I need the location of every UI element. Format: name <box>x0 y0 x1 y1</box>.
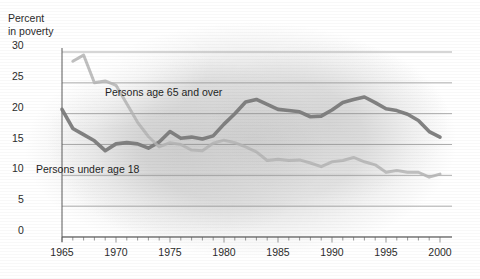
series-lines <box>62 55 440 177</box>
x-tick-label-1965: 1965 <box>42 246 82 258</box>
line-chart-svg <box>0 0 480 279</box>
series-label-1: Persons age 65 and over <box>105 86 222 98</box>
x-tick-label-1970: 1970 <box>96 246 136 258</box>
x-tick-label-1975: 1975 <box>150 246 190 258</box>
y-tick-label-20: 20 <box>12 101 24 113</box>
y-tick-label-30: 30 <box>12 39 24 51</box>
series-label-0: Persons under age 18 <box>36 163 139 175</box>
x-tick-label-1990: 1990 <box>312 246 352 258</box>
x-axis-ticks <box>62 237 440 243</box>
x-tick-label-1995: 1995 <box>366 246 406 258</box>
x-tick-label-2000: 2000 <box>420 246 460 258</box>
y-axis-title: Percent in poverty <box>8 12 54 37</box>
series-line-1 <box>73 55 440 177</box>
y-tick-label-5: 5 <box>18 193 24 205</box>
y-tick-label-25: 25 <box>12 70 24 82</box>
x-tick-label-1980: 1980 <box>204 246 244 258</box>
y-tick-label-15: 15 <box>12 132 24 144</box>
series-line-0 <box>62 97 440 151</box>
y-tick-label-0: 0 <box>18 224 24 236</box>
chart-page: Percent in poverty 051015202530 19651970… <box>0 0 480 279</box>
x-tick-label-1985: 1985 <box>258 246 298 258</box>
y-tick-label-10: 10 <box>12 162 24 174</box>
